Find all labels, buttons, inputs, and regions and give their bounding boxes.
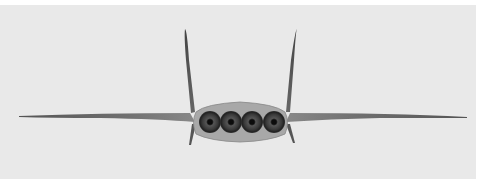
right-wing [286,113,467,122]
left-vertical-tail [185,29,195,113]
left-wing [19,113,195,122]
right-vertical-tail [286,28,297,112]
aircraft-rear-view [0,0,478,179]
